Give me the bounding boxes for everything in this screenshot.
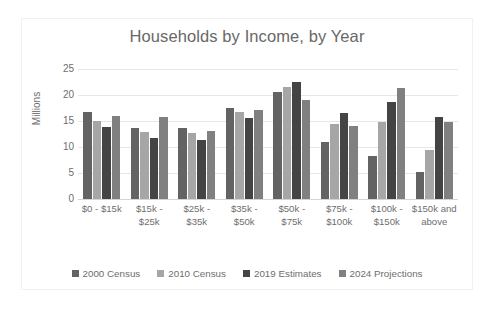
bar[interactable] — [140, 132, 149, 199]
bar-group — [411, 69, 459, 199]
chart-legend: 2000 Census2010 Census2019 Estimates2024… — [22, 268, 472, 279]
bar[interactable] — [330, 124, 339, 199]
bar[interactable] — [131, 128, 140, 199]
bar-group — [221, 69, 269, 199]
x-axis-tick: $75k - $100k — [316, 203, 364, 228]
bar-group — [363, 69, 411, 199]
legend-item[interactable]: 2000 Census — [72, 268, 141, 279]
plot-area: Millions 2520151050 $0 - $15k$15k - $25k… — [22, 19, 472, 289]
bar[interactable] — [178, 128, 187, 199]
legend-label: 2019 Estimates — [254, 268, 322, 279]
bar[interactable] — [112, 116, 121, 199]
bar[interactable] — [397, 88, 406, 199]
bars-area — [78, 69, 458, 199]
y-axis-tick: 20 — [52, 90, 74, 100]
bar[interactable] — [197, 140, 206, 199]
legend-swatch-icon — [72, 270, 79, 277]
x-axis-tick: $15k - $25k — [126, 203, 174, 228]
bar-group — [78, 69, 126, 199]
bar[interactable] — [254, 110, 263, 199]
bar[interactable] — [273, 92, 282, 199]
bar[interactable] — [102, 127, 111, 199]
bar[interactable] — [83, 112, 92, 199]
legend-swatch-icon — [243, 270, 250, 277]
bar[interactable] — [302, 100, 311, 199]
legend-item[interactable]: 2019 Estimates — [243, 268, 322, 279]
legend-item[interactable]: 2010 Census — [157, 268, 226, 279]
bar[interactable] — [150, 138, 159, 199]
x-axis-tick: $35k - $50k — [221, 203, 269, 228]
bar-group — [268, 69, 316, 199]
bar[interactable] — [416, 172, 425, 199]
bar[interactable] — [425, 150, 434, 199]
bar[interactable] — [207, 131, 216, 199]
legend-label: 2000 Census — [83, 268, 141, 279]
bar[interactable] — [378, 122, 387, 199]
bar[interactable] — [188, 133, 197, 199]
y-axis-tick: 0 — [52, 194, 74, 204]
legend-swatch-icon — [339, 270, 346, 277]
chart-container: Households by Income, by Year Millions 2… — [21, 18, 473, 290]
y-axis-title: Millions — [31, 59, 42, 159]
bar-group — [126, 69, 174, 199]
y-axis-tick: 15 — [52, 116, 74, 126]
x-axis-tick: $100k - $150k — [363, 203, 411, 228]
bar[interactable] — [349, 126, 358, 199]
bar[interactable] — [235, 112, 244, 199]
y-axis-tick: 25 — [52, 64, 74, 74]
legend-item[interactable]: 2024 Projections — [339, 268, 423, 279]
bar[interactable] — [159, 117, 168, 199]
bar-group — [173, 69, 221, 199]
x-axis-tick: $50k - $75k — [268, 203, 316, 228]
y-axis-tick-labels: 2520151050 — [52, 69, 74, 199]
bar-group — [316, 69, 364, 199]
bar[interactable] — [444, 122, 453, 199]
bar[interactable] — [292, 82, 301, 199]
axis-baseline — [78, 199, 458, 200]
x-axis-tick-labels: $0 - $15k$15k - $25k$25k - $35k$35k - $5… — [78, 203, 458, 228]
bar[interactable] — [245, 118, 254, 199]
y-axis-tick: 10 — [52, 142, 74, 152]
x-axis-tick: $25k - $35k — [173, 203, 221, 228]
x-axis-tick: $150k and above — [411, 203, 459, 228]
bar[interactable] — [226, 108, 235, 199]
legend-label: 2010 Census — [168, 268, 226, 279]
bar[interactable] — [368, 156, 377, 199]
bar[interactable] — [321, 142, 330, 199]
x-axis-tick: $0 - $15k — [78, 203, 126, 228]
bar[interactable] — [387, 102, 396, 199]
bar[interactable] — [93, 121, 102, 199]
legend-swatch-icon — [157, 270, 164, 277]
bar[interactable] — [340, 113, 349, 199]
bar[interactable] — [283, 87, 292, 199]
legend-label: 2024 Projections — [350, 268, 423, 279]
y-axis-tick: 5 — [52, 168, 74, 178]
bar[interactable] — [435, 117, 444, 199]
